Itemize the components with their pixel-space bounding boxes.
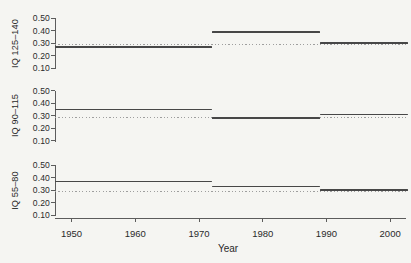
panel-ylabel: IQ 55–80 <box>10 158 21 222</box>
series-segment <box>212 31 320 33</box>
y-tick <box>51 177 55 178</box>
y-tick-label: 0.30 <box>22 185 50 195</box>
iq-proportion-step-chart: Year 0.500.400.300.200.10IQ 125–1400.500… <box>0 0 411 263</box>
y-tick-label: 0.50 <box>22 86 50 96</box>
y-tick <box>51 165 55 166</box>
y-tick <box>51 18 55 19</box>
series-segment <box>212 117 320 119</box>
panel-ylabel: IQ 125–140 <box>10 11 21 75</box>
y-tick-label: 0.20 <box>22 51 50 61</box>
y-tick <box>51 215 55 216</box>
y-tick <box>51 202 55 203</box>
y-tick-label: 0.30 <box>22 38 50 48</box>
x-tick <box>390 219 391 222</box>
x-axis-line <box>55 218 406 219</box>
y-tick <box>51 55 55 56</box>
x-tick <box>326 219 327 222</box>
y-tick <box>51 30 55 31</box>
reference-dotted-line <box>55 191 409 192</box>
y-tick-label: 0.50 <box>22 160 50 170</box>
panel-ylabel: IQ 90–115 <box>10 84 21 148</box>
series-segment <box>212 186 320 188</box>
series-segment <box>55 109 212 111</box>
series-segment <box>320 189 408 191</box>
x-axis-title: Year <box>203 243 253 255</box>
x-tick-label: 1980 <box>246 228 280 239</box>
y-tick <box>51 128 55 129</box>
series-segment <box>55 46 212 48</box>
y-tick-label: 0.10 <box>22 136 50 146</box>
x-tick-label: 1950 <box>55 228 89 239</box>
series-segment <box>320 114 408 116</box>
y-tick-label: 0.20 <box>22 198 50 208</box>
y-tick <box>51 140 55 141</box>
y-tick-label: 0.40 <box>22 98 50 108</box>
y-tick <box>51 68 55 69</box>
x-tick <box>135 219 136 222</box>
y-tick-label: 0.30 <box>22 111 50 121</box>
x-tick <box>262 219 263 222</box>
x-tick-label: 1990 <box>309 228 343 239</box>
y-tick-label: 0.10 <box>22 63 50 73</box>
x-tick <box>71 219 72 222</box>
x-tick-label: 1970 <box>182 228 216 239</box>
x-tick-label: 2000 <box>373 228 407 239</box>
y-tick-label: 0.50 <box>22 13 50 23</box>
x-tick-label: 1960 <box>118 228 152 239</box>
y-tick-label: 0.10 <box>22 210 50 220</box>
y-tick <box>51 90 55 91</box>
y-tick-label: 0.40 <box>22 173 50 183</box>
series-segment <box>55 181 212 183</box>
y-tick-label: 0.20 <box>22 123 50 133</box>
series-segment <box>320 42 408 44</box>
y-tick <box>51 103 55 104</box>
x-tick <box>199 219 200 222</box>
y-tick-label: 0.40 <box>22 26 50 36</box>
